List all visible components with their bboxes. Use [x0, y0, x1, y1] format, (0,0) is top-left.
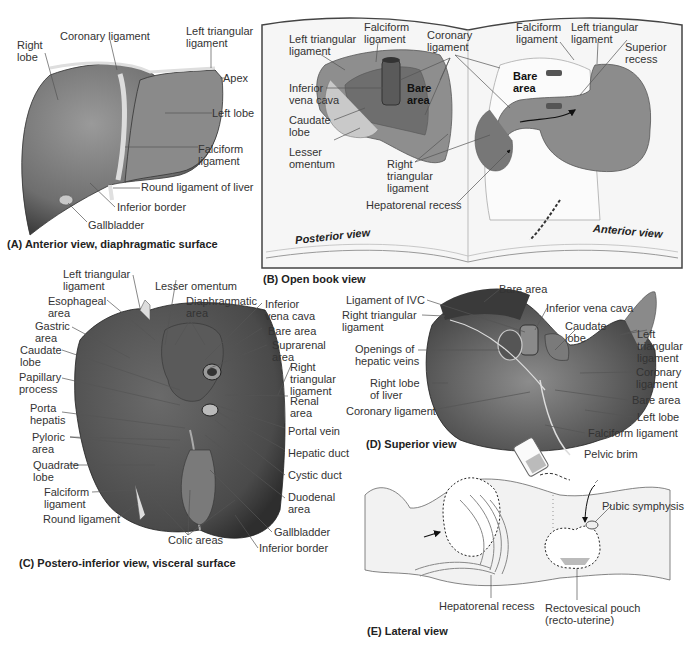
label-c-lesser-omentum: Lesser omentum — [155, 280, 237, 292]
label-e-pelvic-brim: Pelvic brim — [584, 448, 638, 460]
label-c-round-ligament: Round ligament — [43, 513, 120, 525]
label-d-bare-area: Bare area — [632, 394, 680, 406]
label-c-hepatic-duct: Hepatic duct — [288, 447, 349, 459]
label-c-caudate-lobe: Caudate lobe — [20, 344, 62, 368]
label-c-inferior-border: Inferior border — [259, 542, 328, 554]
label-b-hepatorenal-recess: Hepatorenal recess — [366, 199, 461, 211]
label-gallbladder: Gallbladder — [88, 219, 144, 231]
label-c-falciform-ligament: Falciform ligament — [44, 486, 89, 510]
label-c-duodenal-area: Duodenal area — [288, 491, 335, 515]
label-c-esophageal-area: Esophageal area — [48, 295, 106, 319]
label-d-inferior-vena-cava: Inferior vena cava — [546, 302, 633, 314]
label-d-coronary-ligament-right: Coronary ligament — [636, 366, 681, 390]
label-b-bare-area-posterior: Bare area — [407, 82, 431, 106]
label-c-gallbladder: Gallbladder — [274, 526, 330, 538]
label-right-lobe: Right lobe — [17, 39, 43, 63]
label-left-triangular-ligament: Left triangular ligament — [186, 25, 253, 49]
caption-panel-c: (C) Postero-inferior view, visceral surf… — [19, 557, 236, 569]
label-inferior-border: Inferior border — [117, 201, 186, 213]
label-d-falciform-ligament: Falciform ligament — [588, 427, 678, 439]
caption-panel-d: (D) Superior view — [366, 438, 456, 450]
label-c-quadrate-lobe: Quadrate lobe — [33, 459, 79, 483]
label-c-papillary-process: Papillary process — [19, 371, 61, 395]
label-left-lobe: Left lobe — [212, 107, 254, 119]
label-c-pyloric-area: Pyloric area — [32, 431, 65, 455]
label-b-bare-area-anterior: Bare area — [513, 70, 537, 94]
caption-panel-b: (B) Open book view — [263, 273, 366, 285]
label-c-diaphragmatic-area: Diaphragmatic area — [186, 295, 257, 319]
label-d-right-lobe-of-liver: Right lobe of liver — [370, 377, 420, 401]
label-e-rectovesical-pouch: Rectovesical pouch (recto-uterine) — [545, 602, 640, 626]
panel-c-liver-drawing — [75, 300, 285, 538]
label-c-right-triangular-ligament: Right triangular ligament — [290, 361, 336, 397]
label-b-coronary-ligament: Coronary ligament — [427, 29, 472, 53]
label-c-colic-areas: Colic areas — [168, 534, 223, 546]
label-d-bare-area-top: Bare area — [499, 283, 547, 295]
label-b-lesser-omentum: Lesser omentum — [289, 146, 335, 170]
label-round-ligament-of-liver: Round ligament of liver — [141, 181, 254, 193]
label-d-coronary-ligament-left: Coronary ligament — [346, 405, 436, 417]
label-c-gastric-area: Gastric area — [35, 320, 70, 344]
label-b-superior-recess: Superior recess — [625, 41, 667, 65]
label-d-openings-hepatic-veins: Openings of hepatic veins — [355, 343, 419, 367]
label-d-right-triangular-ligament: Right triangular ligament — [342, 309, 417, 333]
label-c-inferior-vena-cava: Inferior vena cava — [265, 298, 315, 322]
label-coronary-ligament: Coronary ligament — [60, 30, 150, 42]
label-b-falciform-ligament: Falciform ligament — [364, 21, 409, 45]
label-b-left-triangular-ligament: Left triangular ligament — [289, 33, 356, 57]
caption-panel-a: (A) Anterior view, diaphragmatic surface — [7, 238, 218, 250]
label-c-bare-area: Bare area — [268, 325, 316, 337]
label-e-hepatorenal-recess: Hepatorenal recess — [439, 600, 534, 612]
label-e-pubic-symphysis: Pubic symphysis — [602, 500, 684, 512]
label-c-left-triangular-ligament: Left triangular ligament — [63, 268, 130, 292]
label-b-caudate-lobe: Caudate lobe — [289, 114, 331, 138]
label-c-porta-hepatis: Porta hepatis — [30, 402, 65, 426]
label-b-inferior-vena-cava: Inferior vena cava — [289, 82, 339, 106]
label-d-caudate-lobe: Caudate lobe — [565, 320, 607, 344]
label-d-left-triangular-ligament: Left triangular ligament — [637, 328, 683, 364]
label-c-cystic-duct: Cystic duct — [288, 469, 342, 481]
label-c-suprarenal-area: Suprarenal area — [272, 339, 326, 363]
label-b-falciform-ligament-anterior: Falciform ligament — [516, 21, 561, 45]
label-c-portal-vein: Portal vein — [288, 425, 340, 437]
label-b-right-triangular-ligament: Right triangular ligament — [387, 158, 433, 194]
label-d-ligament-of-ivc: Ligament of IVC — [346, 294, 425, 306]
label-d-left-lobe: Left lobe — [637, 411, 679, 423]
label-c-renal-area: Renal area — [290, 395, 319, 419]
label-apex: Apex — [223, 72, 248, 84]
caption-panel-e: (E) Lateral view — [367, 625, 448, 637]
label-falciform-ligament: Falciform ligament — [198, 143, 243, 167]
